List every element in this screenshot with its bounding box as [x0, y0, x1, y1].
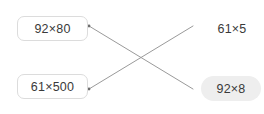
target-label-bottom-right-text: 92×8 [217, 82, 246, 96]
target-label-bottom-right[interactable]: 92×8 [201, 76, 261, 101]
option-box-top-left[interactable]: 92×80 [17, 16, 88, 41]
target-label-top-right-text: 61×5 [218, 22, 247, 36]
target-label-top-right[interactable]: 61×5 [205, 17, 259, 40]
matching-exercise: 92×80 61×500 61×5 92×8 [0, 0, 264, 114]
connector-endpoint-dot-top-left [88, 25, 91, 28]
option-box-top-left-label: 92×80 [34, 22, 70, 36]
connector-line-bottom-left-to-top-right[interactable] [89, 26, 193, 89]
connector-line-top-left-to-bottom-right[interactable] [89, 26, 193, 89]
option-box-bottom-left-label: 61×500 [31, 80, 74, 94]
option-box-bottom-left[interactable]: 61×500 [17, 74, 88, 99]
connector-endpoint-dot-bottom-left [88, 88, 91, 91]
